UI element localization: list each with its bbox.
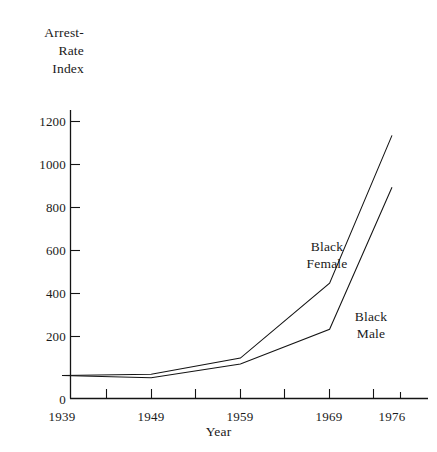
plot-area [0,0,437,452]
x-tick-marks [107,389,401,399]
y-tick-marks [71,122,81,337]
series-line-black-male [62,187,392,377]
chart-figure: Arrest- Rate Index 1200 1000 800 600 400… [0,0,437,452]
series-line-black-female [62,135,392,375]
